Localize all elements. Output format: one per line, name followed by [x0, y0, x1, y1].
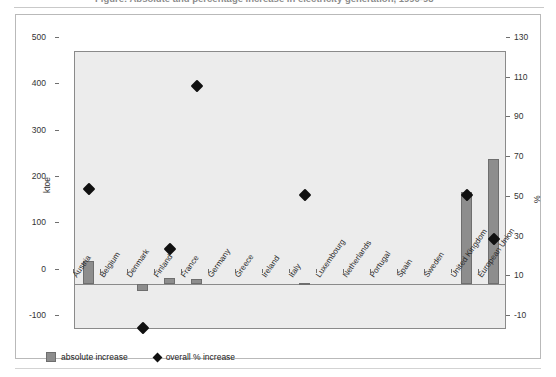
left-tick-300: 300	[6, 125, 46, 135]
left-tick-mark	[55, 83, 59, 84]
chart-legend: absolute increase overall % increase	[46, 352, 235, 362]
left-tick-mark	[55, 130, 59, 131]
title-divider	[14, 7, 544, 8]
marker-denmark	[136, 322, 149, 335]
bottom-divider	[15, 368, 541, 369]
left-tick-mark	[55, 176, 59, 177]
legend-item-absolute: absolute increase	[46, 352, 128, 362]
legend-label-absolute: absolute increase	[61, 352, 128, 362]
plot-area	[74, 51, 506, 329]
left-tick-mark	[55, 269, 59, 270]
figure-title: Figure: Absolute and percentage increase…	[95, 0, 465, 5]
right-tick-mark	[506, 236, 510, 237]
legend-label-percent: overall % increase	[166, 352, 235, 362]
figure-frame: ktoe % AustriaBelgiumDenmarkFinlandFranc…	[15, 14, 541, 359]
right-tick-mark	[506, 77, 510, 78]
left-tick-mark	[55, 222, 59, 223]
bar-denmark	[137, 284, 148, 291]
right-tick-mark	[506, 275, 510, 276]
bar-finland	[164, 278, 175, 284]
plot-inner	[75, 52, 505, 328]
left-tick-500: 500	[6, 32, 46, 42]
right-tick-mark	[506, 156, 510, 157]
legend-diamond-icon	[152, 352, 162, 362]
left-tick-200: 200	[6, 171, 46, 181]
right-tick-50: 50	[514, 191, 554, 201]
left-tick-mark	[55, 315, 59, 316]
marker-france	[190, 79, 203, 92]
left-tick-100: 100	[6, 217, 46, 227]
right-tick-130: 130	[514, 32, 554, 42]
right-tick-90: 90	[514, 111, 554, 121]
marker-italy	[298, 189, 311, 202]
legend-square-icon	[46, 352, 56, 362]
right-tick-mark	[506, 315, 510, 316]
chart-page: Figure: Absolute and percentage increase…	[0, 0, 556, 377]
right-tick-mark	[506, 37, 510, 38]
right-tick-mark	[506, 116, 510, 117]
left-tick-0: 0	[6, 264, 46, 274]
right-tick--10: -10	[514, 310, 554, 320]
left-tick--100: -100	[6, 310, 46, 320]
legend-item-percent: overall % increase	[154, 352, 235, 362]
left-tick-mark	[55, 37, 59, 38]
right-tick-30: 30	[514, 231, 554, 241]
right-tick-10: 10	[514, 270, 554, 280]
right-tick-110: 110	[514, 72, 554, 82]
right-tick-70: 70	[514, 151, 554, 161]
bar-italy	[299, 283, 310, 285]
right-tick-mark	[506, 196, 510, 197]
marker-austria	[82, 183, 95, 196]
bar-france	[191, 279, 202, 283]
left-tick-400: 400	[6, 78, 46, 88]
